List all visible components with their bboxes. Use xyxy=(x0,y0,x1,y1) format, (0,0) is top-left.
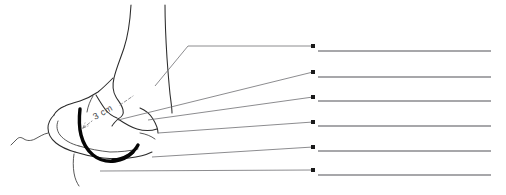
measurement-leader-left xyxy=(83,121,92,128)
leader-line-3 xyxy=(148,97,313,120)
leader-line-2 xyxy=(118,72,313,120)
probe-contact-edge xyxy=(79,109,133,161)
dorsum-inner-contour xyxy=(87,96,93,112)
midfoot-wave-contour xyxy=(118,119,157,131)
bullet-dots-group xyxy=(311,44,315,172)
bullet-dot-1 xyxy=(311,44,315,48)
peroneal-tendon-fold xyxy=(140,133,155,139)
measurement-leader-right xyxy=(120,96,133,105)
leader-line-6 xyxy=(100,170,313,171)
leader-line-1 xyxy=(155,46,313,86)
sole-contour xyxy=(75,152,152,159)
skin-fold-wave xyxy=(11,133,48,145)
leader-line-4 xyxy=(158,122,313,133)
heel-pad-tail xyxy=(73,154,79,186)
anatomical-line-drawing: 3 cm xyxy=(0,0,506,195)
answer-lines-group xyxy=(318,51,491,175)
bullet-dot-5 xyxy=(311,145,315,149)
anterior-leg-contour xyxy=(165,5,172,113)
figure-canvas: 3 cm xyxy=(0,0,506,195)
forefoot-tip-contour xyxy=(48,115,75,152)
measurement-label-3cm: 3 cm xyxy=(91,103,114,122)
heel-contour xyxy=(112,119,118,126)
arch-inner-contour xyxy=(57,121,79,146)
posterior-leg-contour xyxy=(113,5,131,119)
bullet-dot-4 xyxy=(311,120,315,124)
bullet-dot-6 xyxy=(311,168,315,172)
leader-line-5 xyxy=(152,147,313,157)
bullet-dot-2 xyxy=(311,70,315,74)
lower-leg-group xyxy=(112,5,172,126)
bullet-dot-3 xyxy=(311,95,315,99)
